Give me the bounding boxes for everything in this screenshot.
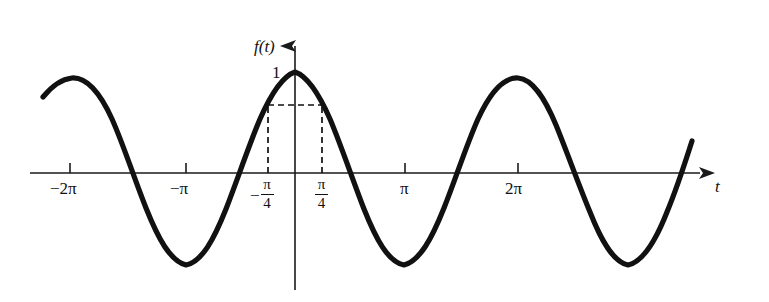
fraction-denominator: 4: [261, 196, 273, 212]
x-tick-label-pi: π: [400, 180, 409, 197]
plot-canvas: [0, 0, 769, 302]
x-axis-label: t: [715, 178, 720, 195]
x-tick-label-minus-pi-over-4: − π 4: [250, 178, 274, 212]
y-axis-label: f(t): [254, 38, 275, 55]
fraction-numerator: π: [316, 177, 328, 193]
x-tick-label-minus-2pi: −2π: [50, 180, 77, 197]
peak-value-label: 1: [272, 64, 281, 81]
fraction-numerator: π: [261, 177, 273, 193]
fraction-denominator: 4: [316, 196, 328, 212]
cosine-curve: [43, 72, 692, 265]
cosine-wave-figure: f(t) t 1 −2π −π π 2π − π 4 π 4: [0, 0, 769, 302]
x-tick-label-2pi: 2π: [505, 180, 522, 197]
minus-sign: −: [250, 187, 260, 204]
fraction-pi-4: π 4: [315, 177, 328, 211]
fraction-minus-pi-4: π 4: [261, 177, 274, 211]
x-tick-label-pi-over-4: π 4: [315, 178, 328, 212]
x-tick-label-minus-pi: −π: [170, 180, 188, 197]
